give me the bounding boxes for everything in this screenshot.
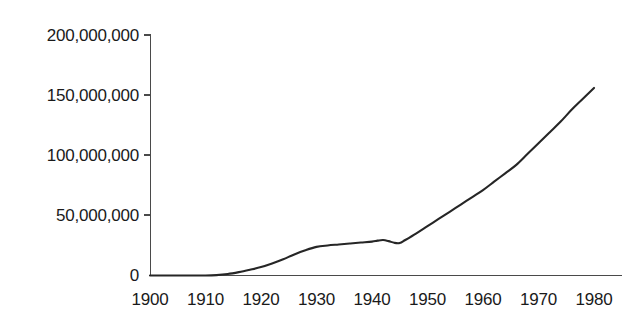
x-tick-label-1930: 1930 [298,290,335,309]
x-tick-label-1950: 1950 [409,290,446,309]
x-tick-label-1970: 1970 [520,290,557,309]
x-tick-label-1910: 1910 [187,290,224,309]
x-tick-label-1960: 1960 [464,290,501,309]
x-tick-label-1980: 1980 [575,290,612,309]
data-series-line [150,88,594,276]
x-tick-label-1900: 1900 [131,290,168,309]
x-tick-label-1940: 1940 [353,290,390,309]
y-tick-label-200000000: 200,000,000 [47,26,139,45]
y-tick-label-150000000: 150,000,000 [47,86,139,105]
y-tick-label-50000000: 50,000,000 [56,206,139,225]
y-tick-label-100000000: 100,000,000 [47,146,139,165]
x-axis-tick-labels: 1900 1910 1920 1930 1940 1950 1960 1970 … [131,290,612,309]
y-axis-tick-labels: 200,000,000 150,000,000 100,000,000 50,0… [47,26,139,285]
chart-plot-area: 200,000,000 150,000,000 100,000,000 50,0… [0,0,644,335]
line-chart-figure: 200,000,000 150,000,000 100,000,000 50,0… [0,0,644,335]
x-tick-label-1920: 1920 [242,290,279,309]
y-tick-label-0: 0 [130,266,139,285]
